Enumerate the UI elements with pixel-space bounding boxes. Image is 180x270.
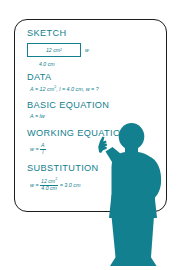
data-line-prefix: A = 12 cm [30,86,54,92]
data-line-suffix: , l = 4.0 cm, w = ? [56,86,99,92]
sketch-area-exponent: 2 [60,48,62,52]
basic-equation-heading: BASIC EQUATION [27,101,109,110]
substitution-denominator: 4.0 cm [40,185,58,191]
section-substitution: SUBSTITUTION w = 12 cm2 4.0 cm = 3.0 cm [27,164,99,191]
data-line: A = 12 cm2, l = 4.0 cm, w = ? [30,86,99,92]
sketch-heading: SKETCH [27,29,97,38]
legs [112,216,155,257]
sketch-area-value: 12 cm [46,47,60,53]
pointing-hand-icon [98,137,107,154]
substitution-result: = 3.0 cm [60,182,81,188]
sketch-length-label: 4.0 cm [39,61,55,67]
data-heading: DATA [27,73,99,82]
sketch-diagram: 12 cm2 w 4.0 cm [27,43,97,71]
substitution-heading: SUBSTITUTION [27,164,99,173]
substitution-line: w = 12 cm2 4.0 cm = 3.0 cm [30,178,99,191]
substitution-numerator-value: 12 cm [41,178,55,184]
substitution-lhs: w = [30,182,39,188]
sketch-area-label: 12 cm2 [27,43,81,57]
person-silhouette-icon [96,123,180,270]
section-basic-equation: BASIC EQUATION A = lw [27,101,109,120]
working-equation-denominator: l [41,150,44,156]
working-equation-lhs: w = [30,146,39,152]
section-data: DATA A = 12 cm2, l = 4.0 cm, w = ? [27,73,99,92]
sketch-width-label: w [85,47,89,53]
substitution-numerator-exponent: 2 [55,177,57,181]
working-equation-fraction: A l [40,143,45,155]
substitution-fraction: 12 cm2 4.0 cm [40,178,58,191]
feet [110,257,157,267]
basic-equation-line: A = lw [30,114,109,119]
section-sketch: SKETCH 12 cm2 w 4.0 cm [27,29,97,71]
hips [109,195,157,218]
worksheet-illustration: SKETCH 12 cm2 w 4.0 cm DATA A = 12 cm2, … [0,0,180,270]
head [119,123,145,150]
